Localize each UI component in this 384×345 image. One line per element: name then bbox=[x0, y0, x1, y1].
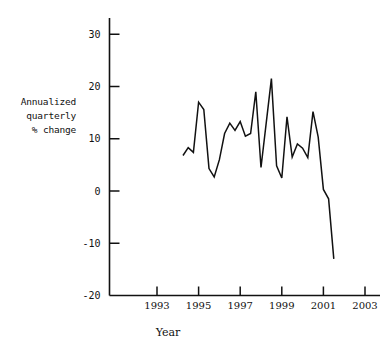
y-tick-label: -10 bbox=[82, 238, 100, 249]
y-tick-label: 20 bbox=[88, 81, 100, 92]
y-tick-label: 10 bbox=[88, 133, 100, 144]
x-tick-label: 1993 bbox=[144, 300, 169, 311]
y-tick-label: -20 bbox=[82, 290, 100, 301]
y-tick-label: 30 bbox=[88, 29, 100, 40]
x-tick-label: 1999 bbox=[269, 300, 294, 311]
x-axis: 199319951997199920012003 bbox=[110, 287, 381, 311]
chart-container: Annualized quarterly % change 3020100-10… bbox=[0, 0, 384, 345]
y-axis: 3020100-10-20 bbox=[82, 18, 119, 301]
y-tick-group: 3020100-10-20 bbox=[82, 29, 119, 301]
data-series-group bbox=[183, 79, 334, 259]
x-tick-group: 199319951997199920012003 bbox=[144, 287, 377, 311]
x-tick-label: 2001 bbox=[311, 300, 336, 311]
chart-plot-area: 3020100-10-20 199319951997199920012003 Y… bbox=[0, 0, 384, 345]
x-tick-label: 1997 bbox=[227, 300, 252, 311]
x-tick-label: 1995 bbox=[186, 300, 211, 311]
series-line-annualized-quarterly-change bbox=[183, 79, 334, 259]
x-tick-label: 2003 bbox=[352, 300, 377, 311]
x-axis-title: Year bbox=[155, 326, 181, 339]
y-tick-label: 0 bbox=[94, 186, 100, 197]
